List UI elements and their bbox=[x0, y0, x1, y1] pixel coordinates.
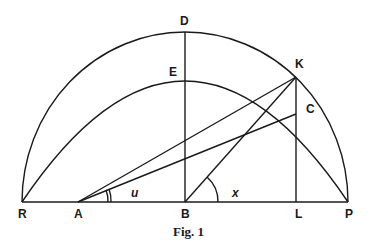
angle-u-arc-2 bbox=[109, 189, 111, 202]
figure-caption: Fig. 1 bbox=[173, 224, 204, 239]
label-D: D bbox=[180, 14, 189, 28]
label-L: L bbox=[295, 207, 302, 221]
label-K: K bbox=[295, 57, 304, 71]
line-AK bbox=[78, 77, 296, 202]
geometry-figure: D E K C R A B L P u x Fig. 1 bbox=[0, 0, 372, 248]
label-E: E bbox=[169, 65, 177, 79]
label-B: B bbox=[181, 207, 190, 221]
line-AC bbox=[78, 114, 296, 202]
label-R: R bbox=[18, 207, 27, 221]
angle-x-arc bbox=[207, 177, 218, 202]
angle-u-arc-1 bbox=[106, 190, 108, 202]
angle-u-label: u bbox=[131, 186, 139, 200]
label-A: A bbox=[74, 207, 83, 221]
label-P: P bbox=[345, 207, 353, 221]
angle-x-label: x bbox=[231, 186, 240, 200]
label-C: C bbox=[306, 102, 315, 116]
